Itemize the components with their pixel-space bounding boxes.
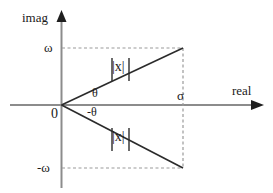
imaginary-axis-label: imag — [22, 11, 48, 24]
imaginary-axis-arrowhead — [57, 10, 67, 22]
lower-magnitude-label: |x| — [112, 130, 125, 144]
negative-omega-tick-label: -ω — [37, 161, 50, 174]
real-axis-arrowhead — [251, 100, 264, 110]
theta-angle-label: θ — [92, 87, 98, 99]
sector-diagram: imag real 0 ω -ω σ θ -θ |x| |x| — [0, 0, 273, 193]
sigma-tick-label: σ — [177, 89, 184, 102]
omega-tick-label: ω — [44, 41, 53, 54]
origin-label: 0 — [51, 107, 58, 121]
negative-theta-angle-label: -θ — [87, 106, 97, 118]
upper-magnitude-label: |x| — [112, 60, 125, 74]
real-axis-label: real — [232, 84, 251, 97]
upper-sector-ray — [62, 48, 184, 105]
